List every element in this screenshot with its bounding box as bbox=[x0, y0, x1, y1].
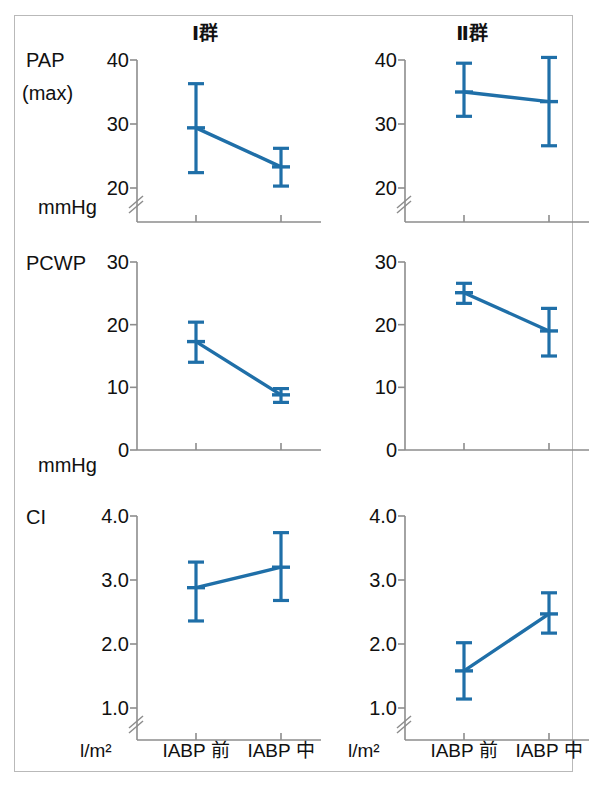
y-tick-label: 0 bbox=[118, 439, 129, 461]
panel-title-group-1: Ⅰ群 bbox=[192, 22, 218, 44]
y-tick-label: 1.0 bbox=[369, 697, 397, 719]
row-label-pap: PAP bbox=[26, 49, 65, 71]
x-unit-label-left: l/m² bbox=[80, 740, 112, 761]
y-tick-label: 30 bbox=[375, 113, 397, 135]
y-tick-label: 40 bbox=[107, 49, 129, 71]
x-unit-label-right: l/m² bbox=[348, 740, 380, 761]
y-tick-label: 20 bbox=[375, 177, 397, 199]
data-point-1 bbox=[187, 84, 205, 173]
chart-panel-5: 1.02.03.04.0 bbox=[101, 505, 321, 740]
y-tick-label: 30 bbox=[107, 113, 129, 135]
data-point-1 bbox=[187, 562, 205, 621]
data-point-1 bbox=[455, 63, 473, 116]
series-connector-line bbox=[196, 342, 281, 395]
row-label-pap-max: (max) bbox=[22, 82, 73, 104]
x-category-label-right-1: IABP 前 bbox=[430, 740, 497, 761]
data-point-2 bbox=[272, 533, 290, 601]
chart-panel-6: 1.02.03.04.0 bbox=[369, 505, 589, 740]
unit-label-pap-mmhg: mmHg bbox=[38, 196, 97, 218]
y-tick-label: 4.0 bbox=[101, 505, 129, 527]
y-tick-label: 2.0 bbox=[369, 633, 397, 655]
panels-layer: 203040203040010203001020301.02.03.04.01.… bbox=[101, 49, 589, 740]
y-tick-label: 10 bbox=[375, 376, 397, 398]
series-connector-line bbox=[464, 92, 549, 102]
series-connector-line bbox=[464, 614, 549, 671]
data-point-1 bbox=[187, 322, 205, 362]
y-tick-label: 30 bbox=[375, 251, 397, 273]
panel-title-group-2: Ⅱ群 bbox=[456, 22, 488, 44]
y-tick-label: 20 bbox=[107, 314, 129, 336]
y-tick-label: 3.0 bbox=[369, 569, 397, 591]
x-category-label-left-1: IABP 前 bbox=[162, 740, 229, 761]
data-point-2 bbox=[540, 593, 558, 633]
data-point-2 bbox=[272, 148, 290, 186]
data-point-2 bbox=[540, 308, 558, 356]
y-tick-label: 2.0 bbox=[101, 633, 129, 655]
y-tick-label: 4.0 bbox=[369, 505, 397, 527]
x-category-label-left-2: IABP 中 bbox=[247, 740, 314, 761]
chart-panel-4: 0102030 bbox=[375, 251, 589, 461]
row-label-pcwp: PCWP bbox=[26, 252, 86, 274]
multi-panel-error-bar-chart: Ⅰ群 Ⅱ群 PAP (max) PCWP CI mmHg mmHg l/m² l… bbox=[0, 0, 589, 787]
y-tick-label: 20 bbox=[375, 314, 397, 336]
y-tick-label: 0 bbox=[386, 439, 397, 461]
series-connector-line bbox=[464, 293, 549, 331]
y-tick-label: 10 bbox=[107, 376, 129, 398]
series-connector-line bbox=[196, 128, 281, 167]
y-tick-label: 1.0 bbox=[101, 697, 129, 719]
y-tick-label: 30 bbox=[107, 251, 129, 273]
data-point-2 bbox=[540, 57, 558, 145]
row-label-ci: CI bbox=[26, 506, 46, 528]
data-point-1 bbox=[455, 643, 473, 699]
x-category-label-right-2: IABP 中 bbox=[515, 740, 582, 761]
unit-label-pcwp-mmhg: mmHg bbox=[38, 454, 97, 476]
series-connector-line bbox=[196, 567, 281, 587]
data-point-1 bbox=[455, 283, 473, 303]
y-tick-label: 20 bbox=[107, 177, 129, 199]
y-tick-label: 40 bbox=[375, 49, 397, 71]
chart-panel-1: 203040 bbox=[107, 49, 321, 222]
chart-panel-2: 203040 bbox=[375, 49, 589, 222]
y-tick-label: 3.0 bbox=[101, 569, 129, 591]
chart-panel-3: 0102030 bbox=[107, 251, 321, 461]
